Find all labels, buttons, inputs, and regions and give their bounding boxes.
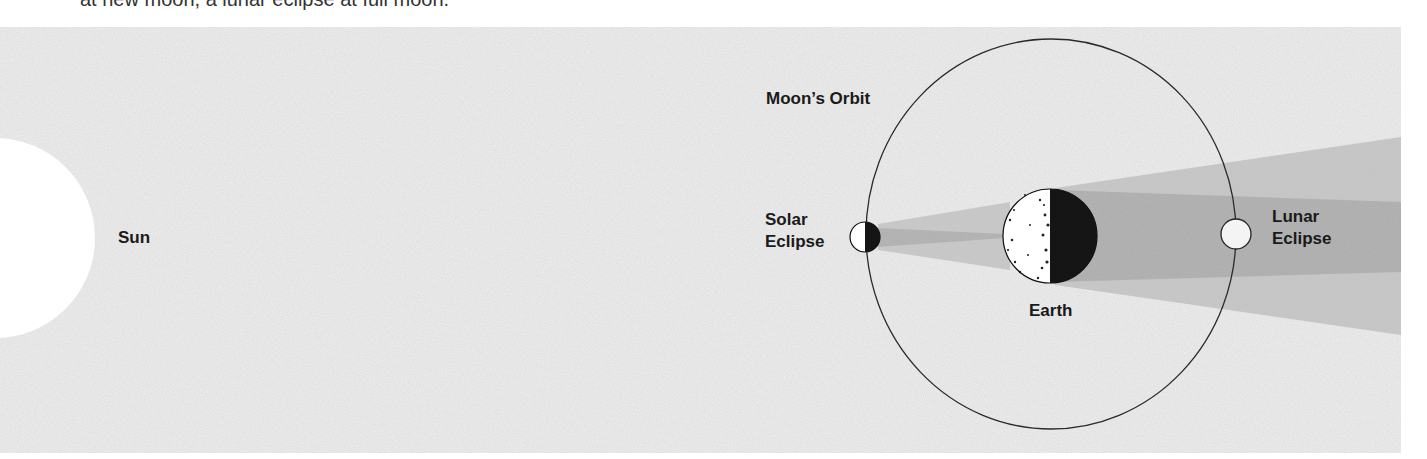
lunar-eclipse-label-line2: Eclipse [1272, 228, 1332, 250]
earth-body [1003, 189, 1097, 283]
eclipse-diagram [0, 0, 1427, 459]
solar-eclipse-label-line1: Solar [765, 209, 825, 231]
sun-label: Sun [118, 227, 150, 249]
moon-lunar-eclipse [1221, 219, 1251, 249]
lunar-eclipse-label-line1: Lunar [1272, 206, 1332, 228]
earth-label: Earth [1029, 300, 1072, 322]
solar-eclipse-label-line2: Eclipse [765, 231, 825, 253]
lunar-eclipse-label: Lunar Eclipse [1272, 206, 1332, 250]
moon-solar-eclipse [850, 222, 880, 252]
solar-eclipse-label: Solar Eclipse [765, 209, 825, 253]
moons-orbit-label: Moon’s Orbit [766, 88, 870, 110]
